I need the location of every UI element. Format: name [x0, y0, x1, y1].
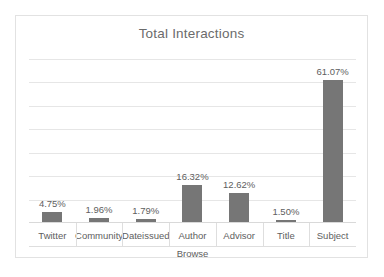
category-label-title: Title	[263, 223, 310, 247]
category-tick	[76, 223, 77, 247]
bar-value-label: 4.75%	[39, 198, 66, 209]
bar-value-label: 1.79%	[132, 205, 159, 216]
bar-slot: 1.79%	[122, 59, 169, 223]
x-axis-title: Browse	[29, 248, 356, 259]
category-label-author: Author	[169, 223, 216, 247]
bar[interactable]	[323, 80, 343, 223]
bar[interactable]	[229, 193, 249, 223]
bar-value-label: 1.96%	[86, 204, 113, 215]
category-axis: TwitterCommunityDateissuedAuthorAdvisorT…	[29, 223, 356, 247]
chart-title: Total Interactions	[16, 26, 367, 41]
bar[interactable]	[182, 185, 202, 223]
category-tick	[122, 223, 123, 247]
category-label-twitter: Twitter	[29, 223, 76, 247]
bar-slot: 1.50%	[263, 59, 310, 223]
category-tick	[169, 223, 170, 247]
category-label-subject: Subject	[309, 223, 356, 247]
category-tick	[309, 223, 310, 247]
bar-slot: 1.96%	[76, 59, 123, 223]
category-label-community: Community	[76, 223, 123, 247]
bar-value-label: 61.07%	[317, 66, 349, 77]
bar-value-label: 12.62%	[223, 179, 255, 190]
category-label-dateissued: Dateissued	[122, 223, 169, 247]
bar-value-label: 1.50%	[272, 206, 299, 217]
bars-layer: 4.75%1.96%1.79%16.32%12.62%1.50%61.07%	[29, 59, 356, 223]
bar-value-label: 16.32%	[176, 171, 208, 182]
bar-slot: 12.62%	[216, 59, 263, 223]
chart-container: Total Interactions 4.75%1.96%1.79%16.32%…	[15, 15, 368, 258]
bar-slot: 16.32%	[169, 59, 216, 223]
bar-slot: 61.07%	[309, 59, 356, 223]
category-label-advisor: Advisor	[216, 223, 263, 247]
category-tick	[216, 223, 217, 247]
bar-slot: 4.75%	[29, 59, 76, 223]
category-tick	[263, 223, 264, 247]
plot-area: 4.75%1.96%1.79%16.32%12.62%1.50%61.07%	[29, 59, 356, 223]
